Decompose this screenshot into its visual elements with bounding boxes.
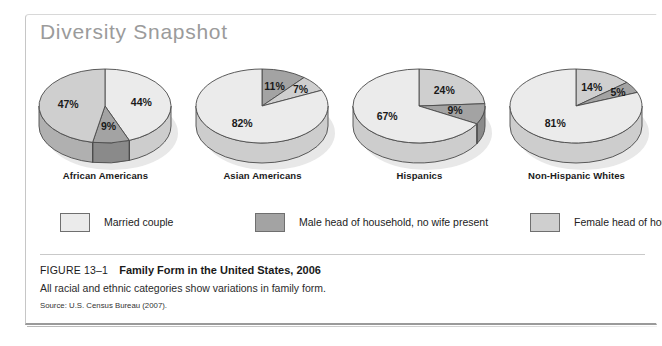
legend-label-female_head: Female head of household, no husband pre…	[574, 216, 662, 228]
pie-chart-4: 14%5%81%	[498, 48, 655, 188]
category-label-2: Asian Americans	[184, 170, 341, 181]
pie-slice-value-label: 67%	[377, 110, 399, 122]
caption-divider	[40, 254, 645, 255]
figure-frame-shadow	[27, 326, 657, 327]
pie-slice-value-label: 5%	[610, 86, 626, 98]
pie-chart-1: 44%9%47%	[27, 48, 184, 188]
pie-slice-wall	[93, 140, 130, 163]
pie-slice-value-label: 11%	[264, 80, 285, 92]
legend-label-male_head: Male head of household, no wife present	[299, 216, 488, 228]
category-label-1: African Americans	[27, 170, 184, 181]
pie-slice-value-label: 9%	[447, 104, 463, 116]
legend-item-female_head: Female head of household, no husband pre…	[530, 209, 662, 235]
figure-heading: Family Form in the United States, 2006	[119, 264, 321, 276]
legend-item-married: Married couple	[60, 209, 173, 235]
pie-chart-row: 44%9%47%11%7%82%24%9%67%14%5%81%	[27, 48, 655, 188]
caption-subtitle: All racial and ethnic categories show va…	[40, 282, 640, 295]
page-title: Diversity Snapshot	[40, 20, 228, 44]
legend-swatch-female_head	[530, 213, 560, 232]
figure-caption: FIGURE 13–1Family Form in the United Sta…	[40, 263, 640, 311]
legend-item-male_head: Male head of household, no wife present	[255, 209, 488, 235]
pie-slice-value-label: 24%	[434, 84, 456, 96]
pie-chart-3: 24%9%67%	[341, 48, 498, 188]
pie-chart-2: 11%7%82%	[184, 48, 341, 188]
legend-label-married: Married couple	[104, 216, 173, 228]
category-label-4: Non-Hispanic Whites	[498, 170, 655, 181]
pie-slice-value-label: 14%	[581, 81, 603, 93]
pie-slice-value-label: 81%	[545, 117, 567, 129]
figure-number: FIGURE 13–1	[40, 264, 108, 276]
category-label-row: African AmericansAsian AmericansHispanic…	[27, 170, 655, 186]
pie-slice-value-label: 82%	[232, 117, 254, 129]
category-label-3: Hispanics	[341, 170, 498, 181]
caption-source: Source: U.S. Census Bureau (2007).	[40, 300, 640, 311]
pie-slice-value-label: 7%	[293, 83, 309, 95]
caption-headline: FIGURE 13–1Family Form in the United Sta…	[40, 263, 640, 277]
pie-slice-value-label: 47%	[58, 98, 80, 110]
pie-slice-value-label: 44%	[131, 96, 153, 108]
legend-swatch-married	[60, 213, 90, 232]
legend-swatch-male_head	[255, 213, 285, 232]
pie-slice-value-label: 9%	[101, 120, 117, 132]
